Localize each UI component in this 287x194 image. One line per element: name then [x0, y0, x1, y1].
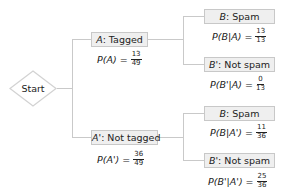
prob-expression: P(A) =: [97, 54, 128, 65]
fraction: 13 49: [131, 51, 142, 67]
prob-a-prime: P(A') = 36 49: [97, 151, 144, 167]
prob-a: P(A) = 13 49: [97, 51, 142, 67]
event-symbol: B': [209, 59, 218, 70]
node-b-prime-not-spam-given-a-prime: B': Not spam: [204, 153, 275, 168]
node-b-prime-not-spam-given-a: B': Not spam: [204, 57, 275, 72]
denominator: 49: [132, 60, 141, 68]
connector-a-to-b: [183, 16, 204, 17]
prob-expression: P(A') =: [97, 154, 130, 165]
denominator: 13: [256, 85, 265, 93]
connector-a-prime-out: [158, 137, 183, 138]
connector-a-vertical: [183, 16, 184, 65]
denominator: 13: [256, 37, 265, 45]
node-a-tagged: A: Tagged: [91, 32, 148, 47]
prob-expression: P(B'|A) =: [210, 79, 253, 90]
node-a-prime-not-tagged: A': Not tagged: [91, 130, 158, 145]
prob-expression: P(B|A') =: [210, 127, 253, 138]
prob-b-prime-given-a: P(B'|A) = 0 13: [210, 76, 265, 92]
connector-level1-vertical: [72, 39, 73, 137]
event-label: : Not spam: [218, 155, 270, 166]
node-b-spam-given-a: B: Spam: [204, 9, 275, 24]
connector-start-out: [57, 88, 72, 89]
fraction: 11 36: [256, 124, 267, 140]
event-label: : Spam: [226, 108, 259, 119]
denominator: 36: [257, 133, 266, 141]
event-symbol: A': [92, 132, 101, 143]
start-label: Start: [9, 70, 57, 107]
fraction: 25 36: [257, 173, 268, 189]
denominator: 36: [258, 182, 267, 190]
fraction: 36 49: [133, 151, 144, 167]
event-label: : Not tagged: [101, 132, 160, 143]
node-b-spam-given-a-prime: B: Spam: [204, 106, 275, 121]
event-symbol: B': [209, 155, 218, 166]
connector-to-a-prime: [72, 137, 91, 138]
prob-expression: P(B|A) =: [212, 31, 252, 42]
prob-expression: P(B'|A') =: [208, 176, 254, 187]
prob-b-given-a-prime: P(B|A') = 11 36: [210, 124, 267, 140]
connector-a-to-b-prime: [183, 64, 204, 65]
fraction: 13 13: [255, 28, 266, 44]
connector-a-out: [148, 39, 183, 40]
event-label: : Not spam: [218, 59, 270, 70]
connector-a-prime-to-b-prime: [183, 160, 204, 161]
fraction: 0 13: [256, 76, 265, 92]
prob-b-given-a: P(B|A) = 13 13: [212, 28, 266, 44]
start-node: Start: [9, 70, 57, 107]
denominator: 49: [134, 160, 143, 168]
connector-to-a: [72, 39, 91, 40]
connector-a-prime-to-b: [183, 113, 204, 114]
event-label: : Spam: [226, 11, 259, 22]
connector-a-prime-vertical: [183, 113, 184, 161]
prob-b-prime-given-a-prime: P(B'|A') = 25 36: [208, 173, 267, 189]
event-label: : Tagged: [103, 34, 143, 45]
